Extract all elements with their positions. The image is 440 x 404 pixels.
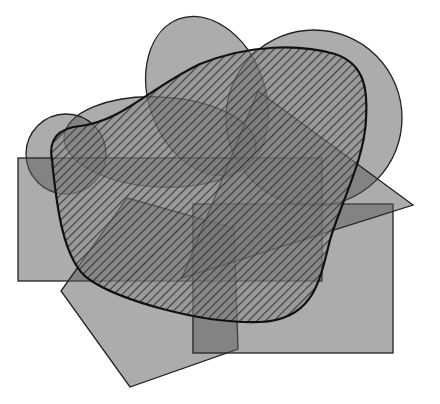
shapes-svg xyxy=(0,0,440,404)
blob-shape xyxy=(51,47,366,322)
diagram-canvas xyxy=(0,0,440,404)
shape-layer xyxy=(18,0,413,387)
